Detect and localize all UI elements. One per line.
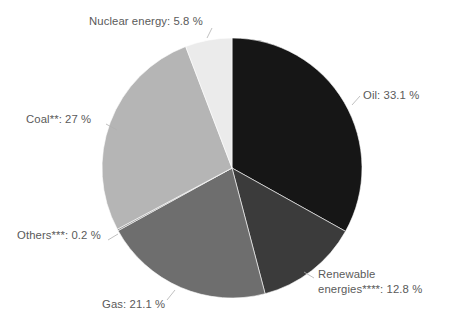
pie-slice-label-renewable-line1: Renewable — [318, 268, 375, 280]
pie-slice-label-nuclear-energy: Nuclear energy: 5.8 % — [89, 14, 203, 29]
leader-line-oil — [352, 96, 360, 105]
leader-line-gas — [167, 290, 175, 300]
pie-slice-label-oil: Oil: 33.1 % — [363, 88, 419, 103]
pie-slice-label-renewable-energies: Renewableenergies****: 12.8 % — [318, 267, 436, 296]
pie-slice-label-renewable-line2: energies****: 12.8 % — [318, 283, 422, 295]
pie-slices-group — [102, 38, 362, 298]
pie-slice-label-others: Others***: 0.2 % — [17, 228, 101, 243]
pie-slice-label-gas: Gas: 21.1 % — [102, 297, 165, 312]
leader-line-others — [108, 234, 118, 240]
pie-chart: Nuclear energy: 5.8 % Oil: 33.1 % Coal**… — [0, 0, 452, 326]
pie-slice-label-coal: Coal**: 27 % — [26, 112, 91, 127]
leader-line-nuclear — [207, 28, 212, 38]
